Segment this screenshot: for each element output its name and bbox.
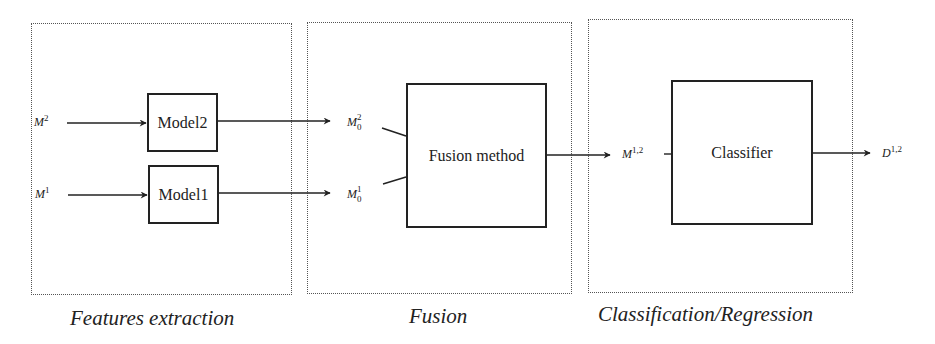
- model2-label: Model2: [158, 114, 208, 132]
- fusion-method-block: Fusion method: [406, 83, 547, 228]
- fusion-input-m02-label: M20: [347, 113, 362, 133]
- input-m1-label: M1: [35, 188, 50, 200]
- model2-block: Model2: [147, 93, 218, 152]
- input-m2-label: M2: [34, 116, 49, 128]
- caption-fusion: Fusion: [409, 306, 467, 327]
- caption-features-extraction: Features extraction: [70, 308, 234, 329]
- output-d12-label: D1,2: [882, 147, 902, 159]
- pipeline-diagram: M2 M1 Model2 Model1 M20 M10 Fusion metho…: [0, 0, 935, 344]
- stage-features-extraction: [31, 23, 292, 295]
- model1-label: Model1: [159, 186, 209, 204]
- model1-block: Model1: [148, 165, 219, 224]
- fusion-input-m01-label: M10: [347, 185, 362, 205]
- caption-classification-regression: Classification/Regression: [598, 304, 813, 325]
- fused-m12-label: M1,2: [622, 148, 643, 160]
- classifier-block: Classifier: [671, 80, 813, 225]
- fusion-method-label: Fusion method: [429, 147, 525, 165]
- classifier-label: Classifier: [711, 144, 772, 162]
